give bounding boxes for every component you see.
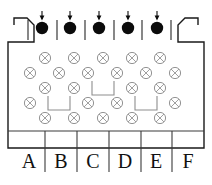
input-1-arrow-head <box>40 16 45 21</box>
input-1-dot <box>36 22 48 34</box>
output-label-a: A <box>22 150 37 172</box>
output-label-d: D <box>118 150 132 172</box>
lattice-site <box>97 112 108 123</box>
funnel-outline <box>8 18 204 148</box>
lattice-funnel-figure: ABCDEF <box>0 0 212 185</box>
lattice-bracket <box>48 96 70 110</box>
lattice-bracket <box>92 81 114 95</box>
input-dot-group <box>36 22 163 34</box>
lattice-site <box>39 112 50 123</box>
lattice-site <box>24 97 35 108</box>
lattice-site <box>39 82 50 93</box>
lattice-row-5 <box>39 112 165 123</box>
lattice-row-4 <box>24 96 180 110</box>
output-letter-group: ABCDEF <box>22 150 194 172</box>
site-lattice-group <box>24 52 180 123</box>
lattice-site <box>82 97 93 108</box>
lattice-site <box>169 97 180 108</box>
output-label-f: F <box>182 150 193 172</box>
lattice-site <box>111 67 122 78</box>
lattice-site <box>169 67 180 78</box>
lattice-site <box>154 112 165 123</box>
lattice-site <box>68 112 79 123</box>
output-column-group <box>8 131 204 172</box>
lattice-site <box>140 67 151 78</box>
lattice-site <box>126 52 137 63</box>
lattice-bracket <box>135 96 157 110</box>
input-3-arrow-head <box>97 16 102 21</box>
input-2-dot <box>64 22 76 34</box>
lattice-site <box>154 82 165 93</box>
lattice-site <box>68 52 79 63</box>
lattice-site <box>126 112 137 123</box>
input-2-arrow-head <box>68 16 73 21</box>
lattice-site <box>82 67 93 78</box>
output-label-c: C <box>86 150 99 172</box>
lattice-site <box>97 52 108 63</box>
funnel-outline-group <box>8 18 204 148</box>
lattice-site <box>68 82 79 93</box>
input-4-dot <box>122 22 134 34</box>
input-arrow-group <box>40 11 160 20</box>
lattice-row-2 <box>24 67 180 78</box>
lattice-site <box>154 52 165 63</box>
lattice-row-1 <box>39 52 165 63</box>
lattice-site <box>126 82 137 93</box>
input-4-arrow-head <box>126 16 131 21</box>
lattice-site <box>111 97 122 108</box>
lattice-site <box>53 67 64 78</box>
input-5-dot <box>151 22 163 34</box>
input-5-arrow-head <box>155 16 160 21</box>
output-label-e: E <box>150 150 162 172</box>
lattice-site <box>24 67 35 78</box>
input-3-dot <box>93 22 105 34</box>
output-label-b: B <box>54 150 67 172</box>
figure-canvas: ABCDEF <box>0 0 212 185</box>
lattice-site <box>39 52 50 63</box>
lattice-row-3 <box>39 81 165 95</box>
